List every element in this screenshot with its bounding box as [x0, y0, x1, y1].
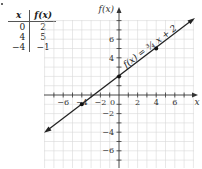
y-axis-arrow-icon	[117, 7, 122, 13]
point-0-2	[117, 74, 121, 78]
x-axis-label: x	[194, 97, 199, 107]
x-tick-label: −6	[57, 98, 69, 107]
y-tick-label: 6	[109, 35, 114, 44]
x-tick-label: 2	[135, 98, 140, 107]
origin-label: 0	[110, 98, 115, 107]
y-axis-label: f(x)	[98, 4, 115, 14]
x-tick-label: 4	[154, 98, 159, 107]
y-tick-label: −4	[102, 128, 114, 137]
coordinate-plane: −6 −4 −2 2 4 6 0 6 4 −2 −4 −6 x f(x) f(x…	[0, 0, 202, 169]
point-neg4-neg1	[80, 102, 84, 106]
y-tick-label: −6	[102, 146, 114, 155]
y-tick-label: 4	[109, 54, 114, 63]
x-tick-label: −2	[95, 98, 107, 107]
y-tick-label: −2	[102, 109, 114, 118]
x-tick-label: 6	[172, 98, 177, 107]
